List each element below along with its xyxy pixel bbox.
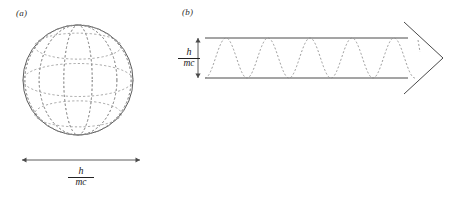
panel-a-sphere-group	[23, 25, 133, 135]
compton-wavelength-figure: (a) (b) h mc h	[0, 0, 461, 199]
wave-tick-mark	[418, 40, 420, 52]
fraction-numerator: h	[68, 166, 94, 176]
compton-wavelength-label-b: h mc	[178, 47, 200, 69]
panel-b-arrow-body	[205, 22, 443, 94]
meridian-line	[64, 25, 92, 135]
sphere-parallels	[23, 33, 133, 127]
meridian-line	[39, 25, 117, 135]
sphere-outline	[23, 25, 133, 135]
measure-a-arrowhead-right	[136, 157, 141, 162]
measure-a-arrowhead-left	[22, 157, 27, 162]
meridian-line	[25, 25, 131, 135]
compton-wavelength-label-a: h mc	[68, 166, 94, 188]
sphere-meridians	[25, 25, 131, 135]
panel-a-measure-arrow	[22, 157, 140, 162]
fraction-numerator: h	[178, 47, 200, 57]
meridian-line	[39, 25, 117, 135]
fraction-denominator: mc	[178, 59, 200, 69]
arrowhead-chevron	[404, 22, 443, 94]
meridian-line	[25, 25, 131, 135]
measure-b-arrowhead-bottom	[195, 74, 200, 79]
dashed-wave	[205, 38, 415, 78]
fraction-denominator: mc	[68, 178, 94, 188]
measure-b-arrowhead-top	[195, 38, 200, 43]
parallel-line	[23, 64, 133, 97]
